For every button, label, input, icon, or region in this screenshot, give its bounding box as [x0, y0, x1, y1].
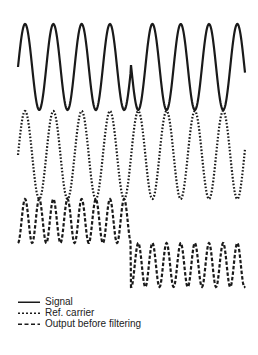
- legend-label-signal: Signal: [45, 296, 73, 307]
- legend-label-output: Output before filtering: [45, 318, 141, 329]
- legend-item-signal: Signal: [18, 296, 141, 307]
- output-waveform: [18, 199, 245, 287]
- ref-carrier-waveform: [18, 111, 245, 199]
- legend-item-ref-carrier: Ref. carrier: [18, 307, 141, 318]
- legend: Signal Ref. carrier Output before filter…: [18, 296, 141, 329]
- legend-item-output: Output before filtering: [18, 318, 141, 329]
- dashed-line-icon: [18, 323, 40, 325]
- signal-waveform: [18, 24, 245, 110]
- dotted-line-icon: [18, 312, 40, 314]
- solid-line-icon: [18, 301, 40, 303]
- legend-label-ref-carrier: Ref. carrier: [45, 307, 94, 318]
